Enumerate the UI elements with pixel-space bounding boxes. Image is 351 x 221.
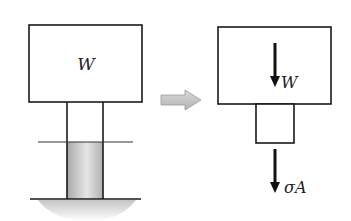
column-shaded-section — [67, 142, 103, 199]
transition-arrow-icon — [161, 90, 201, 110]
stress-force-label: σA — [284, 178, 306, 197]
weight-label: W — [77, 54, 96, 74]
free-body-diagram: W σA — [218, 27, 331, 197]
diagram-canvas: W W σA — [0, 0, 351, 221]
left-assembly: W — [29, 25, 142, 221]
fbd-column-segment — [256, 104, 294, 143]
fbd-weight-label: W — [281, 73, 299, 92]
stress-force-arrow-icon — [270, 149, 280, 193]
ground-shadow — [38, 200, 136, 221]
